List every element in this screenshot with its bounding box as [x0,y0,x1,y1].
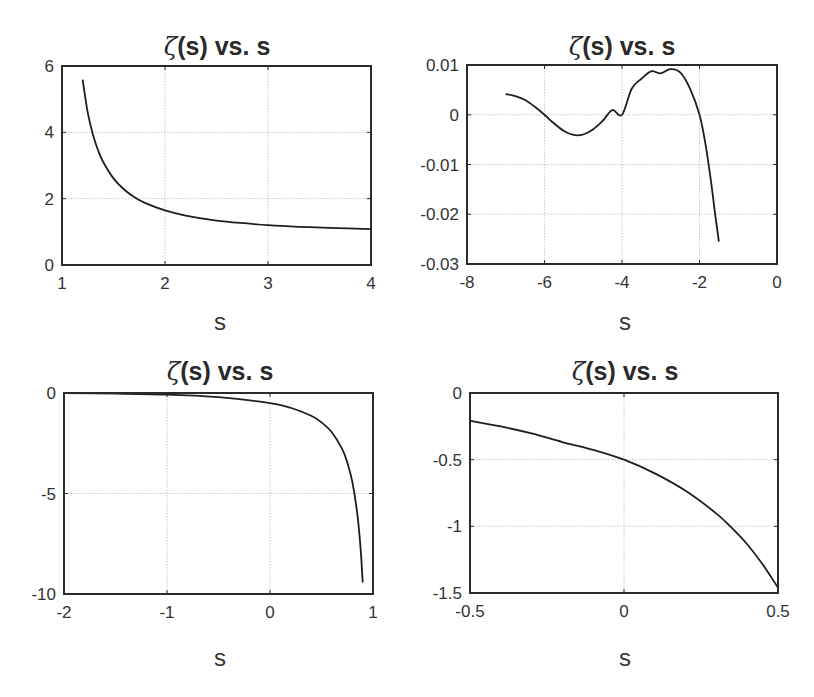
x-tick-label: -2 [692,273,707,292]
x-tick-label: 1 [57,274,66,293]
subplot-2-title: ζ(s) vs. s [569,32,676,61]
x-tick-label: 4 [366,274,375,293]
y-tick-label: -5 [41,485,56,504]
y-tick-label: 0.01 [426,56,459,75]
x-tick-label: -4 [614,273,629,292]
subplot-4-title: ζ(s) vs. s [572,357,679,386]
x-tick-label: -6 [537,273,552,292]
subplot-1-grid [62,66,371,265]
x-tick-label: -8 [459,273,474,292]
x-tick-label: 1 [368,603,377,622]
y-tick-label: -0.5 [433,451,462,470]
subplot-2: ζ(s) vs. s -8-6-4-20-0.03-0.02-0.0100.01… [420,32,781,335]
subplot-2-curve [506,69,719,241]
y-tick-label: 0 [453,384,462,403]
subplot-4-grid [470,393,778,593]
subplot-3-grid [64,393,373,594]
y-tick-label: 2 [45,190,54,209]
x-tick-label: 0 [772,273,781,292]
y-tick-label: 0 [450,106,459,125]
y-tick-label: -0.01 [420,156,459,175]
subplot-3-title: ζ(s) vs. s [167,357,274,386]
subplot-2-ticks: -8-6-4-20-0.03-0.02-0.0100.01 [420,56,781,292]
y-tick-label: -10 [31,585,56,604]
subplot-1-title: ζ(s) vs. s [164,32,271,61]
y-tick-label: 0 [45,256,54,275]
subplot-3-ticks: -2-101-10-50 [31,384,377,622]
subplot-1-ticks: 12340246 [45,57,376,293]
x-tick-label: -2 [56,603,71,622]
subplot-1: ζ(s) vs. s 12340246 s [45,32,376,335]
subplot-4: ζ(s) vs. s -0.500.5-1.5-1-0.50 s [433,357,790,671]
y-tick-label: 6 [45,57,54,76]
subplot-1-xlabel: s [214,308,226,335]
y-tick-label: -0.02 [420,205,459,224]
x-tick-label: -0.5 [455,602,484,621]
y-tick-label: -0.03 [420,255,459,274]
subplot-2-xlabel: s [619,308,631,335]
subplot-4-ticks: -0.500.5-1.5-1-0.50 [433,384,790,621]
y-tick-label: 4 [45,123,54,142]
x-tick-label: -1 [159,603,174,622]
y-tick-label: -1.5 [433,584,462,603]
x-tick-label: 0.5 [766,602,790,621]
x-tick-label: 0 [265,603,274,622]
subplot-1-axes-frame [62,66,371,265]
x-tick-label: 3 [263,274,272,293]
subplot-1-curve [83,80,371,230]
y-tick-label: -1 [447,517,462,536]
x-tick-label: 2 [160,274,169,293]
y-tick-label: 0 [47,384,56,403]
x-tick-label: 0 [619,602,628,621]
subplot-3: ζ(s) vs. s -2-101-10-50 s [31,357,377,671]
figure: ζ(s) vs. s 12340246 s ζ(s) vs. s -8-6-4-… [0,0,814,697]
subplot-4-xlabel: s [619,644,631,671]
subplot-3-curve [64,393,363,583]
subplot-3-xlabel: s [214,644,226,671]
